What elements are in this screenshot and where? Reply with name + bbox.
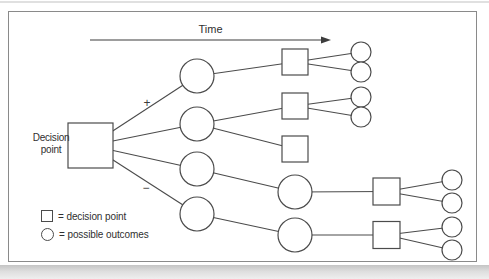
decision-point-label-line1: Decision bbox=[22, 132, 80, 144]
legend-label-decision-point: = decision point bbox=[58, 211, 126, 222]
final-outcome-node-8 bbox=[442, 240, 462, 260]
final-outcome-node-5 bbox=[442, 170, 462, 190]
outcome-node-plus-2 bbox=[180, 107, 214, 141]
decision-node-3-2 bbox=[373, 222, 400, 249]
final-outcome-node-7 bbox=[442, 217, 462, 237]
legend: = decision point = possible outcomes bbox=[41, 210, 149, 241]
outcome-node-minus-1 bbox=[180, 152, 214, 186]
decision-tree-figure: Time Decision point + − = decision point… bbox=[0, 0, 489, 279]
final-outcome-node-2 bbox=[351, 62, 371, 82]
final-outcome-node-6 bbox=[442, 193, 462, 213]
outcome-node-2-2 bbox=[278, 218, 312, 252]
final-outcome-node-3 bbox=[351, 87, 371, 107]
legend-label-possible-outcomes: = possible outcomes bbox=[59, 229, 149, 240]
time-arrow-head bbox=[321, 36, 331, 43]
outcome-node-plus-1 bbox=[180, 59, 214, 93]
decision-point-label: Decision point bbox=[22, 132, 80, 155]
final-outcome-node-4 bbox=[351, 107, 371, 127]
scan-edge-bottom bbox=[0, 265, 489, 279]
square-symbol-icon bbox=[41, 210, 53, 222]
minus-branch-sign: − bbox=[139, 181, 153, 195]
decision-point-label-line2: point bbox=[22, 144, 80, 156]
decision-node-2-2 bbox=[282, 93, 308, 119]
outcome-node-2-1 bbox=[278, 175, 312, 209]
circle-symbol-icon bbox=[41, 228, 54, 241]
final-outcome-node-1 bbox=[351, 42, 371, 62]
plus-branch-sign: + bbox=[140, 96, 154, 110]
decision-node-3-1 bbox=[373, 178, 400, 205]
decision-node-2-3 bbox=[282, 136, 308, 162]
legend-item-decision-point: = decision point bbox=[41, 210, 149, 222]
outcome-node-minus-2 bbox=[180, 197, 214, 231]
legend-item-possible-outcomes: = possible outcomes bbox=[41, 228, 149, 241]
decision-node-2-1 bbox=[282, 49, 308, 75]
time-axis-label: Time bbox=[90, 23, 331, 35]
